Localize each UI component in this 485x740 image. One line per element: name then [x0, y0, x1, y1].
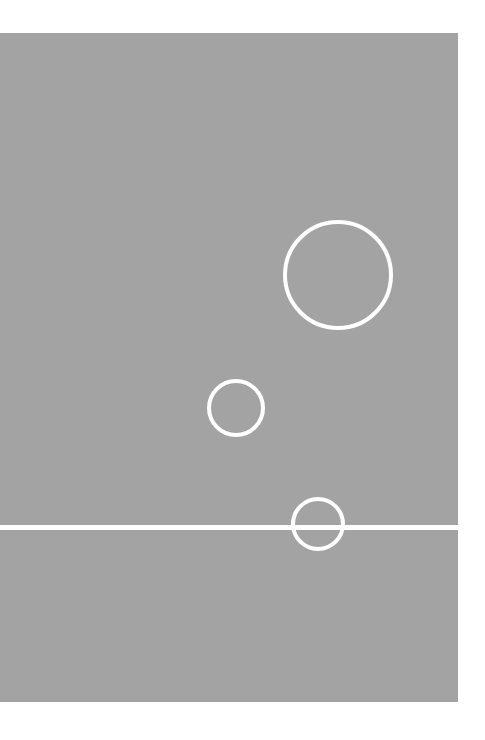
circle-small	[291, 497, 345, 551]
circle-large	[283, 220, 393, 330]
composition-title: Abstract Geometric Composition	[0, 0, 1, 1]
composition-canvas: Abstract Geometric Composition	[0, 0, 485, 740]
horizon-line	[0, 525, 458, 530]
gray-panel	[0, 33, 458, 702]
circle-medium	[207, 379, 265, 437]
